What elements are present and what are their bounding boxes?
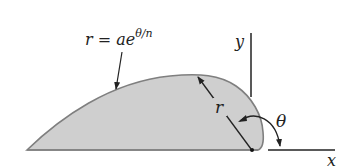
formula-leader-arrow (116, 52, 122, 89)
spiral-area-diagram: y x r θ r = aeθ/n (0, 0, 362, 168)
formula-exponent: θ/n (135, 27, 152, 40)
radius-label: r (215, 97, 224, 117)
shaded-region (27, 75, 263, 150)
x-axis-label: x (327, 151, 336, 168)
angle-label: θ (276, 111, 286, 131)
formula-label: r = aeθ/n (85, 27, 153, 49)
y-axis-label: y (234, 32, 245, 51)
formula-base: r = ae (85, 30, 135, 49)
